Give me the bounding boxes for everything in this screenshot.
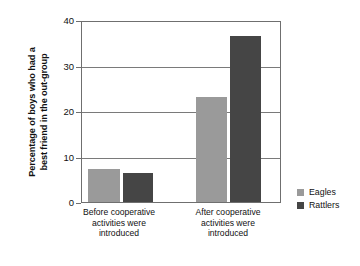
x-category-before-line-3: introduced bbox=[59, 228, 179, 239]
bar-rattlers-after bbox=[230, 36, 261, 202]
bar-eagles-after bbox=[196, 97, 227, 203]
legend-label-rattlers: Rattlers bbox=[309, 200, 339, 210]
legend-item-rattlers: Rattlers bbox=[297, 199, 339, 211]
legend-swatch-rattlers-icon bbox=[297, 202, 304, 209]
x-category-label-after: After cooperative activities were introd… bbox=[168, 207, 288, 239]
y-tick-label-10: 10 bbox=[34, 153, 74, 163]
x-category-before-line-1: Before cooperative bbox=[59, 207, 179, 218]
bar-rattlers-before bbox=[123, 173, 153, 202]
x-category-after-line-2: activities were bbox=[168, 218, 288, 229]
x-category-before-line-2: activities were bbox=[59, 218, 179, 229]
legend-item-eagles: Eagles bbox=[297, 186, 339, 198]
y-tick-label-40: 40 bbox=[34, 16, 74, 26]
x-category-after-line-1: After cooperative bbox=[168, 207, 288, 218]
x-category-after-line-3: introduced bbox=[168, 228, 288, 239]
x-category-label-before: Before cooperative activities were intro… bbox=[59, 207, 179, 239]
bar-eagles-before bbox=[88, 169, 120, 202]
y-tick-label-20: 20 bbox=[34, 107, 74, 117]
y-tick-0 bbox=[76, 203, 81, 204]
legend-swatch-eagles-icon bbox=[297, 189, 304, 196]
legend: Eagles Rattlers bbox=[297, 186, 339, 212]
plot-area bbox=[81, 21, 281, 203]
y-tick-label-30: 30 bbox=[34, 62, 74, 72]
bar-chart: Percentage of boys who had a best friend… bbox=[0, 0, 360, 266]
legend-label-eagles: Eagles bbox=[309, 187, 336, 197]
